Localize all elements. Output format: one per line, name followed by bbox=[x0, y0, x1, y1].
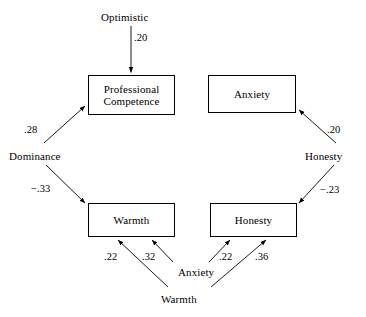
coefficient-warmth-to-honestybox: .36 bbox=[255, 251, 268, 262]
coefficient-dominance-to-warmth: −.33 bbox=[31, 183, 50, 194]
label-honesty-source: Honesty bbox=[305, 150, 342, 162]
node-label-anxiety-top: Anxiety bbox=[209, 88, 295, 101]
edge-dominance-to-warmth bbox=[46, 165, 85, 203]
coefficient-dominance-to-competence: .28 bbox=[24, 124, 37, 135]
coefficient-optimistic-to-competence: .20 bbox=[134, 32, 147, 43]
edge-warmth-to-warmthbox bbox=[118, 240, 168, 287]
node-anxiety-top: Anxiety bbox=[208, 75, 296, 113]
label-optimistic: Optimistic bbox=[101, 11, 148, 23]
coefficient-honesty-to-honestybox: −.23 bbox=[320, 184, 339, 195]
node-honesty-box: Honesty bbox=[210, 203, 297, 237]
coefficient-honesty-to-anxiety: .20 bbox=[327, 124, 340, 135]
label-warmth-source: Warmth bbox=[161, 293, 197, 305]
coefficient-anxiety-to-warmth: .22 bbox=[104, 251, 117, 262]
edge-warmth-to-honestybox bbox=[211, 240, 266, 287]
node-warmth-box: Warmth bbox=[88, 203, 175, 237]
coefficient-anxiety-to-honestybox: .22 bbox=[219, 251, 232, 262]
node-professional-competence: Professional Competence bbox=[88, 75, 175, 115]
label-dominance: Dominance bbox=[9, 150, 61, 162]
node-label-warmth-box: Warmth bbox=[89, 214, 174, 227]
node-label-professional-competence: Professional Competence bbox=[89, 83, 174, 108]
edge-dominance-to-competence bbox=[44, 106, 85, 143]
label-anxiety-source: Anxiety bbox=[178, 266, 214, 278]
node-label-honesty-box: Honesty bbox=[211, 214, 296, 227]
path-diagram: Professional Competence Anxiety Warmth H… bbox=[0, 0, 366, 317]
coefficient-warmth-to-warmthbox: .32 bbox=[142, 251, 155, 262]
